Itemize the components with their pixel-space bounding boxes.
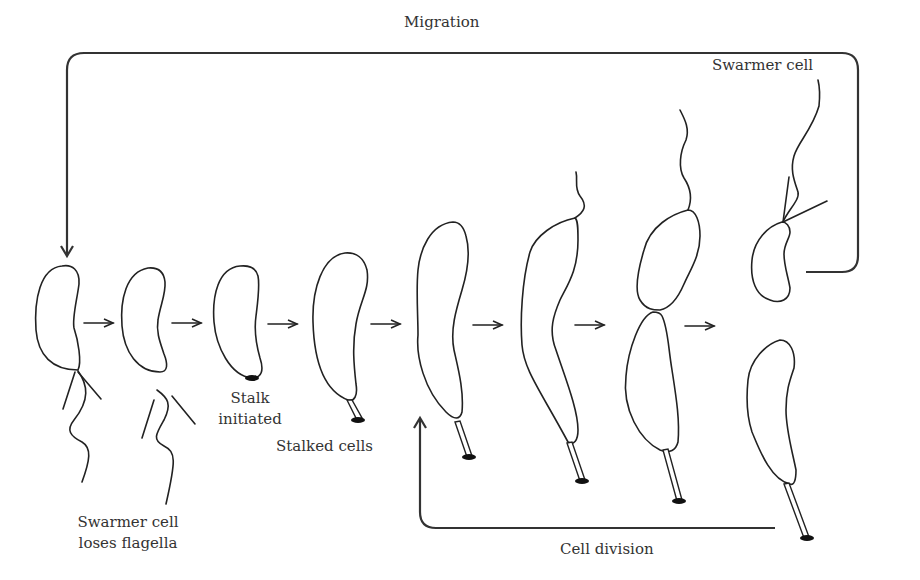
stage-7-dividing-cell	[625, 110, 700, 504]
stage-1-swarmer-cell	[36, 266, 101, 482]
flagellum	[70, 371, 89, 482]
migration-label: Migration	[404, 12, 479, 33]
stalk	[663, 449, 682, 501]
stage-6-predivisional-cell	[521, 172, 589, 484]
new-flagellum	[575, 172, 584, 218]
holdfast	[672, 498, 686, 504]
shed-flagellum	[156, 390, 173, 504]
swarmer-cell-label: Swarmer cell	[712, 55, 813, 76]
pilus	[63, 372, 75, 409]
holdfast	[800, 535, 814, 541]
stalk	[455, 421, 472, 457]
stalk	[347, 400, 362, 420]
stalked-cells-label: Stalked cells	[276, 436, 373, 457]
swarmer-loses-flagella-label: Swarmer cell loses flagella	[68, 512, 188, 554]
swarmer-loses-line2: loses flagella	[68, 533, 188, 554]
stalk-initiated-line1: Stalk	[210, 388, 290, 409]
stage-8-swarmer-daughter	[752, 80, 827, 302]
pilus	[78, 372, 101, 399]
stage-2-cell-losing-flagella	[122, 268, 195, 504]
holdfast	[575, 478, 589, 484]
stalk-initiated-label: Stalk initiated	[210, 388, 290, 430]
stalk	[784, 483, 809, 538]
caulobacter-cycle-diagram	[0, 0, 920, 580]
holdfast	[462, 454, 476, 460]
stalk-initiated-line2: initiated	[210, 409, 290, 430]
cell-division-label: Cell division	[560, 539, 654, 560]
shed-pilus	[142, 400, 154, 438]
stage-3-stalk-initiated	[214, 266, 262, 381]
lower-daughter	[625, 312, 678, 452]
stage-4-stalked-cell	[313, 253, 368, 423]
stalk	[567, 442, 585, 481]
new-flagellum	[680, 110, 691, 210]
stage-8-stalked-daughter	[747, 340, 814, 541]
holdfast	[245, 375, 259, 381]
stage-5-elongating-cell	[417, 222, 476, 460]
upper-daughter	[637, 210, 700, 310]
flagellum	[783, 80, 820, 222]
cell-division-cycle-arrow	[414, 418, 775, 528]
holdfast	[351, 417, 365, 423]
swarmer-loses-line1: Swarmer cell	[68, 512, 188, 533]
shed-pilus	[172, 396, 195, 424]
